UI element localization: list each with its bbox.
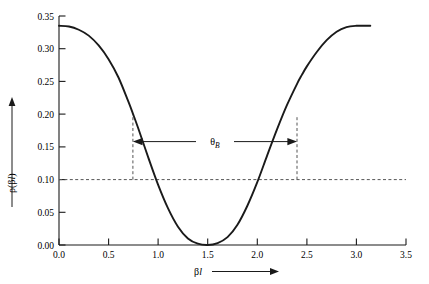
chart-figure: 0.00 0.05 0.10 0.15 0.20 0.25 0.30 0.35 … [0,0,429,284]
x-tick-label: 0.5 [103,250,115,260]
x-axis-tick-labels: 0.0 0.5 1.0 1.5 2.0 2.5 3.0 3.5 [53,250,412,260]
x-tick-label: 3.0 [350,250,362,260]
theta-b-annotation-label: θB [210,136,220,150]
y-axis-title: ρ(βl) [6,173,18,193]
axis-spines [59,16,406,245]
y-tick-label: 0.20 [37,110,54,120]
y-tick-label: 0.00 [37,241,54,251]
y-axis-tick-labels: 0.00 0.05 0.10 0.15 0.20 0.25 0.30 0.35 [37,12,54,251]
x-axis-title-l: l [199,266,202,277]
x-tick-label: 1.0 [152,250,164,260]
x-tick-label: 0.0 [53,250,65,260]
x-tick-label: 2.5 [301,250,313,260]
x-axis-title: βl [194,266,202,277]
x-axis-title-group: βl [194,266,279,277]
y-axis-title-paren: ) [6,173,18,176]
x-tick-label: 2.0 [251,250,263,260]
rho-vs-beta-l-plot: 0.00 0.05 0.10 0.15 0.20 0.25 0.30 0.35 … [0,0,429,284]
rho-curve [59,26,370,245]
x-tick-label: 3.5 [400,250,412,260]
theta-subscript: B [215,141,220,150]
y-axis-ticks [59,16,66,245]
y-tick-label: 0.25 [37,77,54,87]
x-tick-label: 1.5 [202,250,214,260]
y-axis-title-group: ρ(βl) [6,97,18,207]
y-tick-label: 0.10 [37,175,54,185]
x-axis-ticks [59,239,406,246]
y-axis-title-rho: ρ(β [6,180,18,193]
y-tick-label: 0.30 [37,44,54,54]
y-tick-label: 0.15 [37,142,54,152]
y-tick-label: 0.35 [37,12,54,22]
y-tick-label: 0.05 [37,208,54,218]
